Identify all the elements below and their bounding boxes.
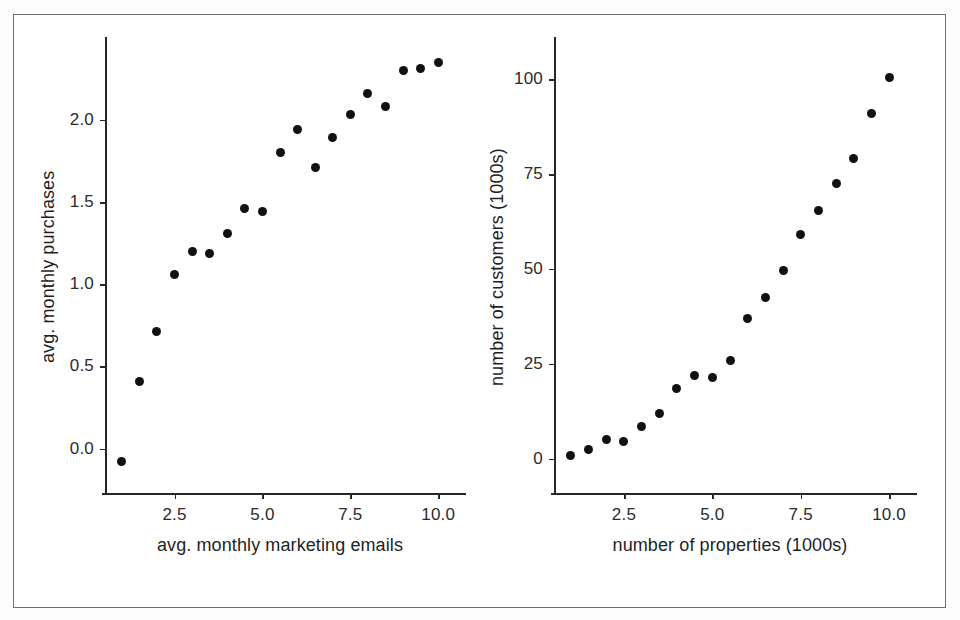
data-point [346,110,355,119]
y-tick-right-1 [549,364,554,366]
data-point [170,270,179,279]
data-point [135,377,144,386]
x-tick-left-2 [350,494,352,499]
data-point [602,435,611,444]
data-point [311,163,320,172]
y-axis-title-right: number of customers (1000s) [487,148,508,386]
y-tick-left-4 [100,120,105,122]
data-point [205,249,214,258]
y-axis-line-left [105,37,107,493]
data-point [655,409,664,418]
x-tick-left-0 [175,494,177,499]
x-tick-left-1 [262,494,264,499]
scatter-panel-right: 02550751002.55.07.510.0number of propert… [480,15,947,609]
x-tick-label-right-2: 7.5 [789,505,813,525]
y-tick-right-3 [549,174,554,176]
data-point [796,230,805,239]
figure-outer-frame: 0.00.51.01.52.02.55.07.510.0avg. monthly… [13,14,946,608]
x-axis-title-right: number of properties (1000s) [613,535,848,556]
y-axis-line-right [554,37,556,493]
y-axis-title-left: avg. monthly purchases [38,171,59,363]
data-point [293,125,302,134]
x-tick-right-3 [889,494,891,499]
data-point [779,266,788,275]
x-tick-right-1 [712,494,714,499]
y-tick-label-right-0: 0 [497,449,543,469]
x-tick-label-left-0: 2.5 [162,505,186,525]
data-point [240,204,249,213]
data-point [117,457,126,466]
data-point [708,373,717,382]
x-tick-label-left-2: 7.5 [338,505,362,525]
data-point [566,451,575,460]
data-point [761,293,770,302]
data-point [726,356,735,365]
data-point [867,109,876,118]
x-tick-label-left-3: 10.0 [421,505,455,525]
figure-root: 0.00.51.01.52.02.55.07.510.0avg. monthly… [0,0,960,620]
data-point [743,314,752,323]
x-tick-label-left-1: 5.0 [250,505,274,525]
y-tick-left-3 [100,202,105,204]
data-point [637,422,646,431]
data-point [152,327,161,336]
y-tick-right-4 [549,79,554,81]
data-point [328,133,337,142]
y-tick-left-1 [100,366,105,368]
data-point [832,179,841,188]
data-point [672,384,681,393]
x-axis-line-right [551,493,917,495]
x-axis-line-left [102,493,466,495]
x-tick-label-right-0: 2.5 [612,505,636,525]
y-tick-label-right-4: 100 [497,69,543,89]
data-point [584,445,593,454]
data-point [885,73,894,82]
data-point [223,229,232,238]
y-tick-label-left-4: 2.0 [48,110,94,130]
scatter-panel-left: 0.00.51.01.52.02.55.07.510.0avg. monthly… [14,15,480,609]
x-tick-right-2 [801,494,803,499]
data-point [434,58,443,67]
y-tick-left-0 [100,449,105,451]
data-point [381,102,390,111]
y-tick-left-2 [100,284,105,286]
x-tick-right-0 [624,494,626,499]
y-tick-right-0 [549,459,554,461]
data-point [849,154,858,163]
data-point [363,89,372,98]
data-point [258,207,267,216]
data-point [399,66,408,75]
data-point [416,64,425,73]
data-point [690,371,699,380]
x-tick-label-right-3: 10.0 [872,505,906,525]
data-point [814,206,823,215]
y-tick-right-2 [549,269,554,271]
data-point [619,437,628,446]
data-point [188,247,197,256]
x-tick-label-right-1: 5.0 [700,505,724,525]
y-tick-label-left-0: 0.0 [48,439,94,459]
x-tick-left-3 [438,494,440,499]
data-point [276,148,285,157]
x-axis-title-left: avg. monthly marketing emails [157,535,403,556]
